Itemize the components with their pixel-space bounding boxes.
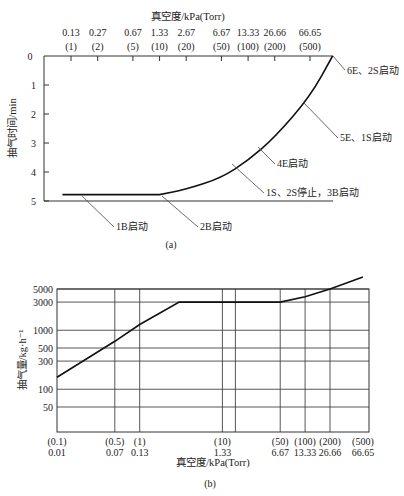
chart-b-x-tick-kpa: 13.33 bbox=[294, 447, 317, 458]
chart-b-y-tick-label: 5000 bbox=[33, 284, 53, 295]
chart-a-x-tick-torr: (1) bbox=[65, 41, 77, 53]
chart-a-annotation-leader bbox=[303, 102, 338, 138]
chart-a-x-tick-kpa: 66.65 bbox=[299, 27, 322, 38]
chart-b: 50003000100050030010050 (0.1)0.01(0.5)0.… bbox=[16, 277, 374, 490]
chart-a-x-tick-torr: (2) bbox=[92, 41, 104, 53]
chart-a-x-tick-torr: (50) bbox=[213, 41, 230, 53]
chart-b-x-tick-kpa: 0.13 bbox=[131, 447, 149, 458]
chart-a-x-tick-torr: (500) bbox=[299, 41, 321, 53]
chart-a-annotation-leader bbox=[333, 56, 345, 70]
chart-a-y-tick-label: 4 bbox=[31, 167, 36, 178]
chart-a-x-tick-torr: (5) bbox=[127, 41, 139, 53]
chart-b-y-tick-label: 1000 bbox=[33, 325, 53, 336]
chart-a-x-tick-torr: (10) bbox=[151, 41, 168, 53]
chart-a-annotation-label: 6E、2S启动 bbox=[347, 64, 399, 76]
chart-a-x-tick-kpa: 0.67 bbox=[124, 27, 142, 38]
chart-a-y-tick-label: 3 bbox=[31, 138, 36, 149]
chart-b-x-tick-kpa: 26.66 bbox=[319, 447, 342, 458]
chart-b-ylabel: 抽气量/kg·h⁻¹ bbox=[16, 330, 28, 391]
chart-a-x-tick-kpa: 26.66 bbox=[264, 27, 287, 38]
chart-a-caption: (a) bbox=[165, 239, 176, 251]
chart-a-y-tick-0: 0 bbox=[28, 51, 33, 62]
chart-a-x-tick-kpa: 0.27 bbox=[89, 27, 107, 38]
chart-a-annotation-leader bbox=[258, 147, 275, 164]
chart-a-annotation-label: 1B启动 bbox=[116, 220, 148, 232]
chart-b-x-tick-kpa: 0.07 bbox=[106, 447, 124, 458]
chart-a-annotation-label: 4E启动 bbox=[277, 157, 308, 169]
chart-b-series-line bbox=[57, 277, 363, 377]
chart-a: 真空度/kPa(Torr) 0 0.13(1)0.27(2)0.67(5)1.3… bbox=[6, 10, 399, 251]
chart-b-y-tick-label: 300 bbox=[38, 356, 53, 367]
chart-a-annotation-label: 1S、2S停止，3B启动 bbox=[266, 186, 359, 198]
chart-a-series-line bbox=[62, 56, 332, 195]
chart-a-x-tick-torr: (200) bbox=[264, 41, 286, 53]
chart-a-annotation-label: 2B启动 bbox=[200, 220, 232, 232]
chart-a-x-tick-torr: (20) bbox=[178, 41, 195, 53]
chart-a-x-tick-kpa: 1.33 bbox=[151, 27, 169, 38]
chart-a-x-tick-kpa: 6.67 bbox=[213, 27, 231, 38]
figure: 真空度/kPa(Torr) 0 0.13(1)0.27(2)0.67(5)1.3… bbox=[0, 0, 404, 496]
chart-a-x-tick-torr: (100) bbox=[237, 41, 259, 53]
chart-a-y-tick-label: 1 bbox=[31, 80, 36, 91]
chart-a-title: 真空度/kPa(Torr) bbox=[151, 10, 225, 23]
chart-b-frame bbox=[57, 289, 369, 432]
chart-b-x-tick-kpa: 66.65 bbox=[352, 447, 375, 458]
chart-a-ylabel: 抽气时间/min bbox=[6, 98, 18, 158]
chart-b-y-tick-label: 50 bbox=[43, 402, 53, 413]
chart-a-x-tick-kpa: 13.33 bbox=[237, 27, 260, 38]
chart-b-caption: (b) bbox=[204, 478, 216, 490]
chart-b-y-tick-label: 500 bbox=[38, 343, 53, 354]
chart-b-x-tick-kpa: 6.67 bbox=[271, 447, 289, 458]
chart-a-annotation-label: 5E、1S启动 bbox=[340, 131, 392, 143]
chart-b-y-tick-label: 100 bbox=[38, 384, 53, 395]
chart-b-x-tick-kpa: 0.01 bbox=[48, 447, 66, 458]
chart-a-x-tick-kpa: 2.67 bbox=[177, 27, 195, 38]
chart-a-x-tick-kpa: 0.13 bbox=[62, 27, 80, 38]
chart-b-xlabel: 真空度/kPa(Torr) bbox=[176, 456, 250, 469]
chart-a-y-tick-label: 2 bbox=[31, 109, 36, 120]
chart-a-annotation-leader bbox=[232, 164, 264, 193]
chart-a-y-tick-label: 5 bbox=[31, 196, 36, 207]
chart-b-y-tick-label: 3000 bbox=[33, 297, 53, 308]
